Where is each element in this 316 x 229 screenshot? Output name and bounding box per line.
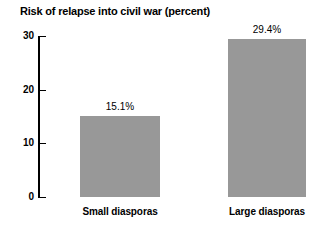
y-tick-label: 0: [12, 192, 34, 202]
y-tick-mark: [40, 143, 46, 144]
bar-small-diasporas: [80, 116, 160, 197]
plot-area: 30 20 10 0 15.1% Small diasporas 29.4% L…: [0, 0, 316, 229]
bar-large-diasporas: [228, 39, 306, 197]
y-tick-mark: [40, 90, 46, 91]
y-tick-label: 20: [12, 85, 34, 95]
bar-value-small-diasporas: 15.1%: [80, 102, 160, 112]
y-tick-label: 30: [12, 31, 34, 41]
bar-category-small-diasporas: Small diasporas: [70, 207, 170, 217]
y-tick-label: 10: [12, 138, 34, 148]
y-tick-mark: [40, 36, 46, 37]
y-tick-mark: [40, 197, 46, 198]
y-axis-line: [38, 36, 40, 198]
bar-chart: Risk of relapse into civil war (percent)…: [0, 0, 316, 229]
bar-value-large-diasporas: 29.4%: [228, 25, 306, 35]
bar-category-large-diasporas: Large diasporas: [217, 207, 316, 217]
